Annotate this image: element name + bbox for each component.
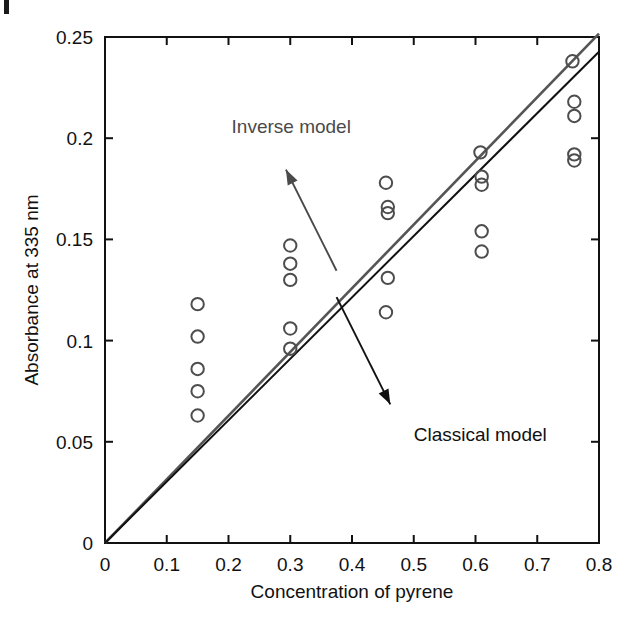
data-point-marker: [382, 272, 394, 284]
data-point-marker: [568, 96, 580, 108]
x-tick-label: 0.3: [277, 554, 303, 575]
regression-line-classical-model: [105, 52, 599, 543]
y-tick-label: 0.15: [56, 229, 93, 250]
annotation-arrow-head: [286, 170, 298, 186]
annotation-label-inverse-model: Inverse model: [232, 116, 351, 137]
x-axis-ticks: [105, 535, 599, 543]
data-point-marker: [475, 245, 487, 257]
data-point-marker: [191, 363, 203, 375]
regression-lines: [105, 34, 599, 543]
data-point-marker: [284, 274, 296, 286]
annotation-arrow-line: [337, 297, 391, 404]
y-tick-label: 0.25: [56, 27, 93, 48]
data-point-marker: [380, 177, 392, 189]
x-tick-label: 0.5: [401, 554, 427, 575]
data-point-marker: [191, 409, 203, 421]
y-axis-ticks-right: [591, 37, 599, 543]
y-axis-ticks: [105, 37, 113, 543]
y-axis-title: Absorbance at 335 nm: [21, 194, 42, 385]
data-point-marker: [284, 239, 296, 251]
data-points-group: [191, 55, 580, 422]
annotation-arrow-line: [286, 170, 337, 271]
x-tick-label: 0.2: [215, 554, 241, 575]
x-tick-label: 0.6: [462, 554, 488, 575]
y-tick-label: 0.1: [67, 331, 93, 352]
y-tick-label: 0.05: [56, 432, 93, 453]
data-point-marker: [191, 385, 203, 397]
y-tick-label: 0.2: [67, 128, 93, 149]
data-point-marker: [380, 306, 392, 318]
data-point-marker: [284, 322, 296, 334]
x-axis-title: Concentration of pyrene: [251, 581, 454, 602]
page-corner-mark: [4, 0, 9, 14]
x-tick-label: 0: [100, 554, 111, 575]
figure-container: 00.10.20.30.40.50.60.70.8 00.050.10.150.…: [0, 0, 640, 630]
annotation-arrow-head: [379, 388, 391, 404]
data-point-marker: [475, 179, 487, 191]
y-axis-tick-labels: 00.050.10.150.20.25: [56, 27, 93, 554]
x-tick-label: 0.1: [154, 554, 180, 575]
data-point-marker: [284, 257, 296, 269]
regression-line-inverse-model: [105, 34, 599, 543]
data-point-marker: [568, 110, 580, 122]
scatter-chart: 00.10.20.30.40.50.60.70.8 00.050.10.150.…: [0, 0, 640, 630]
x-tick-label: 0.4: [339, 554, 366, 575]
annotation-arrows: [286, 170, 390, 405]
data-point-marker: [191, 330, 203, 342]
x-axis-ticks-top: [105, 37, 599, 45]
annotation-label-classical-model: Classical model: [414, 424, 547, 445]
data-point-marker: [475, 225, 487, 237]
data-point-marker: [191, 298, 203, 310]
x-tick-label: 0.8: [586, 554, 612, 575]
x-tick-label: 0.7: [524, 554, 550, 575]
y-tick-label: 0: [82, 533, 93, 554]
x-axis-tick-labels: 00.10.20.30.40.50.60.70.8: [100, 554, 613, 575]
